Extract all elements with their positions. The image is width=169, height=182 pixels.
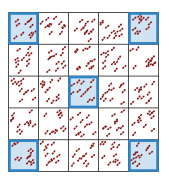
- dot: [111, 113, 116, 117]
- dot: [91, 154, 96, 159]
- dot: [108, 82, 113, 87]
- dot: [61, 46, 66, 51]
- dot: [25, 62, 30, 67]
- dot: [39, 20, 44, 25]
- highlighted-cell: [9, 140, 39, 172]
- dot: [135, 46, 140, 51]
- dot: [111, 141, 116, 146]
- dot: [146, 91, 151, 96]
- dot: [48, 30, 53, 35]
- dot: [75, 148, 80, 153]
- dot: [107, 126, 112, 131]
- dot: [100, 51, 105, 56]
- dot: [120, 101, 125, 106]
- dot: [140, 95, 145, 100]
- dot: [85, 162, 90, 167]
- dot: [106, 88, 111, 93]
- dot: [52, 53, 57, 58]
- dot: [151, 80, 155, 85]
- dot: [60, 60, 65, 65]
- dot: [18, 82, 23, 87]
- dot: [110, 46, 115, 51]
- grid-svg: [8, 12, 159, 172]
- dot: [79, 19, 84, 24]
- dot: [10, 77, 15, 82]
- dot: [121, 89, 126, 94]
- highlighted-cells: [9, 13, 159, 172]
- dot: [150, 115, 155, 120]
- dot: [122, 65, 127, 70]
- dot: [86, 45, 91, 50]
- dot: [39, 140, 44, 145]
- dot: [83, 159, 88, 164]
- dot: [28, 109, 33, 114]
- dot: [45, 16, 50, 21]
- dot: [142, 123, 147, 128]
- dot: [114, 67, 119, 72]
- dot: [117, 55, 122, 60]
- dot: [48, 49, 53, 54]
- dot: [16, 128, 21, 133]
- dot: [85, 114, 90, 119]
- dot: [91, 18, 96, 23]
- dot: [31, 123, 36, 128]
- dot: [87, 38, 92, 43]
- highlighted-cell: [9, 13, 39, 45]
- dot: [147, 97, 152, 102]
- dot: [19, 87, 24, 92]
- dot: [120, 109, 125, 114]
- dot: [119, 27, 124, 32]
- dot: [55, 67, 60, 72]
- dot: [91, 58, 96, 63]
- dot: [17, 69, 22, 74]
- dot: [69, 116, 74, 121]
- dot: [46, 69, 51, 74]
- dot: [77, 111, 82, 116]
- dot: [71, 162, 75, 167]
- dot: [62, 127, 67, 132]
- dot: [143, 83, 148, 88]
- dot: [134, 87, 139, 92]
- dot: [106, 34, 111, 39]
- dot: [53, 15, 58, 20]
- dot: [131, 121, 136, 126]
- dot: [62, 64, 67, 69]
- dot: [49, 130, 54, 135]
- dot: [57, 77, 62, 82]
- dot: [92, 131, 97, 136]
- dot: [60, 125, 65, 130]
- dot: [43, 112, 48, 117]
- dot: [110, 146, 115, 151]
- dot: [116, 161, 121, 166]
- dot: [16, 123, 21, 128]
- dot: [26, 58, 31, 63]
- dot: [20, 56, 25, 61]
- dot: [59, 30, 64, 35]
- dot: [102, 65, 107, 70]
- dot: [58, 21, 63, 26]
- dot: [132, 64, 137, 69]
- dot: [50, 99, 55, 104]
- dot: [115, 126, 120, 131]
- dot: [50, 141, 55, 146]
- dot: [129, 48, 134, 52]
- dot: [150, 128, 155, 133]
- dot: [16, 47, 21, 52]
- dot: [118, 33, 123, 37]
- dot: [120, 131, 125, 136]
- dot: [73, 125, 78, 130]
- dot: [49, 78, 54, 83]
- dot: [77, 157, 82, 162]
- dot: [99, 95, 104, 100]
- dot: [88, 121, 93, 126]
- dot: [106, 132, 111, 137]
- dot: [80, 133, 85, 138]
- dot: [11, 112, 16, 117]
- dot: [44, 152, 49, 157]
- dot: [104, 50, 109, 55]
- dot: [79, 119, 84, 124]
- dot: [116, 143, 121, 148]
- dot: [15, 63, 20, 68]
- dot: [102, 92, 107, 97]
- dot: [84, 123, 89, 128]
